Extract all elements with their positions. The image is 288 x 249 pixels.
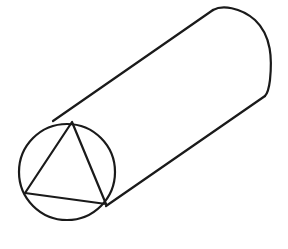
cylinder-diagram [0, 0, 288, 249]
cylinder-back-arc [213, 7, 271, 96]
front-circle [19, 124, 115, 220]
cylinder-top-edge [53, 10, 213, 121]
cylinder-bottom-edge [106, 96, 265, 206]
